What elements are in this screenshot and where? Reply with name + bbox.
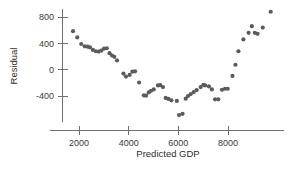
data-point [203,83,207,87]
data-point [137,80,141,84]
data-point [175,99,179,103]
data-point [269,10,273,14]
data-point [71,29,75,33]
data-point [124,74,128,78]
data-point [75,35,79,39]
residual-scatter-plot: -4000400800 2000400060008000 Predicted G… [0,0,291,171]
y-tick-label: 0 [49,65,54,75]
data-point [233,63,237,67]
x-axis-tick-labels: 2000400060008000 [69,138,238,148]
y-tick-label: 400 [39,39,54,49]
data-point [226,87,230,91]
data-point [180,112,184,116]
data-point [236,49,240,53]
data-point [105,46,109,50]
y-tick-label: 800 [39,12,54,22]
data-point [216,97,220,101]
x-tick-label: 6000 [168,138,188,148]
data-point [255,32,259,36]
data-point [169,98,173,102]
y-axis-title: Residual [8,48,19,85]
data-point [115,58,119,62]
x-tick-label: 4000 [119,138,139,148]
data-point [128,73,132,77]
data-point [195,88,199,92]
x-axis-title: Predicted GDP [136,148,199,159]
data-point [250,24,254,28]
data-point [112,55,116,59]
data-point [230,74,234,78]
data-point [261,25,265,29]
y-axis-tick-labels: -4000400800 [36,12,54,101]
data-point [133,69,137,73]
x-tick-label: 8000 [218,138,238,148]
data-point [247,31,251,35]
data-point [161,85,165,89]
x-tick-label: 2000 [69,138,89,148]
data-point [210,87,214,91]
y-tick-label: -400 [36,91,54,101]
data-points-layer [71,10,273,118]
data-point [241,37,245,41]
data-point [207,84,211,88]
data-point [79,42,83,46]
x-axis: 2000400060008000 [50,126,284,148]
data-point [144,94,148,98]
data-point [152,87,156,91]
y-axis: -4000400800 [36,9,68,122]
chart-canvas: -4000400800 2000400060008000 Predicted G… [0,0,291,171]
